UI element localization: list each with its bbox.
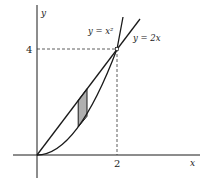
- x-tick-label-2: 2: [114, 158, 120, 169]
- y-tick-label-4: 4: [26, 44, 32, 55]
- parabola-y-equals-x-squared: [37, 17, 123, 155]
- x-axis-label: x: [190, 158, 195, 168]
- line-label: y = 2x: [132, 33, 161, 43]
- parabola-label: y = x²: [87, 26, 114, 36]
- diagram-canvas: y x 4 2 y = x² y = 2x: [0, 0, 209, 192]
- intersection-point-marker: [116, 48, 119, 51]
- y-axis-label: y: [40, 8, 47, 18]
- region-between-curves-diagram: y x 4 2 y = x² y = 2x: [0, 0, 209, 192]
- line-y-equals-2x: [37, 19, 140, 155]
